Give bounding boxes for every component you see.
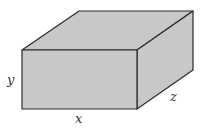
label-y: y: [6, 72, 15, 87]
box-diagram: y x z: [0, 0, 208, 129]
box-front-face: [22, 50, 137, 109]
label-x: x: [75, 111, 83, 126]
label-z: z: [169, 89, 177, 104]
